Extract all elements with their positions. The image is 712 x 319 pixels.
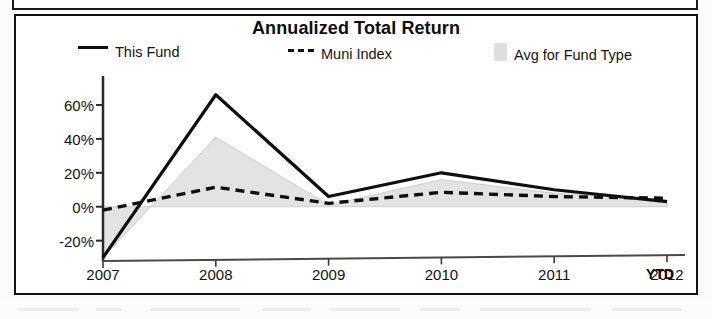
screenshot-root: Annualized Total Return This Fund Muni I…: [0, 0, 712, 319]
x-axis-tick-label: 2009: [312, 266, 345, 283]
y-axis-tick-label: 60%: [22, 96, 94, 113]
chart-svg: [16, 16, 700, 297]
y-axis-tick-label: 20%: [22, 164, 94, 181]
x-axis-tick-label: 2011: [538, 266, 570, 283]
x-axis-tick-label: 2010: [425, 266, 458, 283]
plot-area: 60%40%20%0%-20% 200720082009201020112012…: [16, 16, 700, 297]
y-axis-tick-label: -20%: [22, 232, 94, 249]
x-axis-tick-label: 2008: [199, 266, 232, 283]
y-axis-tick-label: 0%: [22, 198, 94, 215]
ytd-annotation: YTD: [646, 266, 674, 282]
x-axis-tick-label: 2007: [86, 266, 119, 283]
scan-artifact-strip: [0, 300, 712, 319]
y-axis-tick-label: 40%: [22, 130, 94, 147]
panel-above-partial: [12, 0, 698, 10]
annualized-total-return-panel: Annualized Total Return This Fund Muni I…: [14, 14, 698, 295]
